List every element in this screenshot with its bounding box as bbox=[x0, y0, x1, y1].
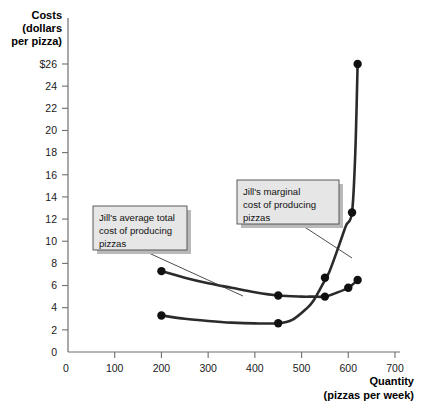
y-axis-title-sub1: (dollars bbox=[22, 22, 62, 34]
x-axis-title-sub: (pizzas per week) bbox=[324, 389, 415, 401]
data-point-atc bbox=[344, 284, 352, 292]
data-point-atc bbox=[321, 292, 329, 300]
mc-callout[interactable]: Jill's marginal cost of producing pizzas bbox=[237, 180, 343, 228]
chart-figure: 024681012141618202224$26 010020030040050… bbox=[0, 0, 424, 417]
y-tick-label: 6 bbox=[51, 279, 57, 291]
x-tick-label: 0 bbox=[63, 362, 69, 374]
mc-callout-line-2: cost of producing bbox=[243, 199, 316, 210]
y-tick-label: 20 bbox=[45, 124, 57, 136]
x-axis-ticks: 0100200300400500600700 bbox=[63, 352, 404, 374]
y-axis-title: Costs (dollars per pizza) bbox=[11, 9, 62, 47]
y-axis-title-sub2: per pizza) bbox=[11, 35, 62, 47]
y-tick-label: 22 bbox=[45, 102, 57, 114]
atc-callout-line-1: Jill's average total bbox=[99, 212, 175, 223]
x-tick-label: 100 bbox=[106, 362, 124, 374]
mc-callout-line-3: pizzas bbox=[243, 212, 270, 223]
x-tick-label: 400 bbox=[246, 362, 264, 374]
x-axis-title-main: Quantity bbox=[369, 375, 414, 387]
data-point-mc bbox=[321, 274, 329, 282]
x-axis-title: Quantity (pizzas per week) bbox=[324, 375, 415, 401]
y-tick-label: 14 bbox=[45, 191, 57, 203]
data-point-mc bbox=[274, 319, 282, 327]
cost-curves-chart: 024681012141618202224$26 010020030040050… bbox=[0, 0, 424, 417]
y-tick-label: 0 bbox=[51, 346, 57, 358]
atc-leader-line bbox=[140, 249, 243, 296]
data-point-atc bbox=[157, 267, 165, 275]
data-point-mc bbox=[353, 60, 361, 68]
x-tick-label: 700 bbox=[386, 362, 404, 374]
atc-callout-line-3: pizzas bbox=[99, 238, 126, 249]
x-tick-label: 600 bbox=[340, 362, 358, 374]
x-tick-label: 200 bbox=[153, 362, 171, 374]
y-axis-title-main: Costs bbox=[31, 9, 62, 21]
data-point-atc bbox=[274, 291, 282, 299]
mc-callout-line-1: Jill's marginal bbox=[243, 186, 300, 197]
y-tick-label: 2 bbox=[51, 324, 57, 336]
y-tick-label: 18 bbox=[45, 146, 57, 158]
data-point-mc bbox=[157, 311, 165, 319]
data-point-atc bbox=[353, 276, 361, 284]
atc-callout[interactable]: Jill's average total cost of producing p… bbox=[93, 206, 191, 254]
data-point-mc bbox=[348, 208, 356, 216]
y-tick-label: 16 bbox=[45, 169, 57, 181]
y-tick-label: $26 bbox=[39, 58, 57, 70]
y-tick-label: 12 bbox=[45, 213, 57, 225]
x-tick-label: 500 bbox=[293, 362, 311, 374]
atc-callout-line-2: cost of producing bbox=[99, 225, 172, 236]
y-tick-label: 10 bbox=[45, 235, 57, 247]
y-axis-ticks: 024681012141618202224$26 bbox=[39, 58, 68, 358]
axes bbox=[68, 18, 400, 352]
y-tick-label: 8 bbox=[51, 257, 57, 269]
y-tick-label: 4 bbox=[51, 301, 57, 313]
x-tick-label: 300 bbox=[199, 362, 217, 374]
y-tick-label: 24 bbox=[45, 80, 57, 92]
